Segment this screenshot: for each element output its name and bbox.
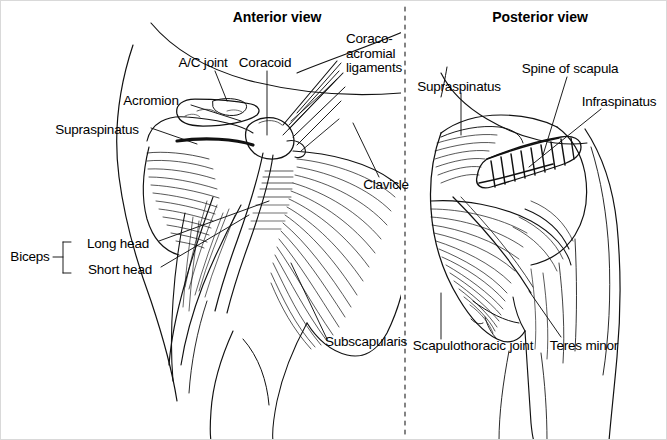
label-clavicle: Clavicle: [363, 178, 409, 193]
panel-title-anterior: Anterior view: [233, 10, 322, 25]
label-coracoid: Coracoid: [239, 56, 291, 71]
label-spine-of-scapula: Spine of scapula: [522, 62, 619, 77]
label-supraspinatus-posterior: Supraspinatus: [417, 80, 501, 95]
label-ac-joint: A/C joint: [178, 56, 227, 71]
label-acromion: Acromion: [123, 94, 178, 109]
label-biceps-short-head: Short head: [88, 263, 152, 278]
label-teres-minor: Teres minor: [550, 339, 618, 354]
label-scapulothoracic-joint: Scapulothoracic joint: [413, 339, 533, 354]
anterior-drawing: [117, 23, 413, 440]
label-biceps: Biceps: [10, 250, 49, 265]
anatomy-figure: Anterior view A/C joint Coracoid Coraco-…: [0, 0, 667, 440]
label-subscapularis: Subscapularis: [325, 335, 407, 350]
label-biceps-long-head: Long head: [87, 237, 149, 252]
posterior-drawing: [430, 67, 620, 440]
label-supraspinatus-anterior: Supraspinatus: [55, 123, 139, 138]
panel-title-posterior: Posterior view: [492, 10, 588, 25]
anterior-leader-lines: [53, 63, 379, 339]
label-infraspinatus: Infraspinatus: [582, 95, 657, 110]
label-coraco-acromial-ligaments: Coraco- acromial ligaments: [346, 32, 408, 76]
